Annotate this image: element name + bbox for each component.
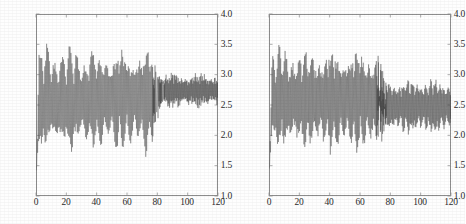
y-tick-label: 4.0 [202, 10, 232, 20]
y-tick-label: 1.5 [202, 161, 232, 171]
x-tick-label: 60 [345, 198, 375, 208]
x-tick-label: 40 [314, 198, 344, 208]
y-tick-label: 3.5 [435, 40, 465, 50]
x-tick-label: 120 [436, 198, 466, 208]
x-tick-label: 80 [375, 198, 405, 208]
x-tick-label: 40 [81, 198, 111, 208]
data-line [36, 44, 218, 171]
y-tick-label: 3.0 [435, 70, 465, 80]
x-tick-label: 100 [172, 198, 202, 208]
plot-area-left [0, 0, 232, 224]
x-tick-label: 20 [284, 198, 314, 208]
plot-area-right [233, 0, 465, 224]
x-tick-label: 60 [112, 198, 142, 208]
x-tick-label: 100 [405, 198, 435, 208]
y-tick-label: 4.0 [435, 10, 465, 20]
x-tick-label: 0 [254, 198, 284, 208]
data-line [269, 45, 451, 169]
y-tick-label: 2.5 [435, 101, 465, 111]
x-tick-label: 80 [142, 198, 172, 208]
y-tick-label: 3.0 [202, 70, 232, 80]
y-tick-label: 1.5 [435, 161, 465, 171]
y-tick-label: 2.0 [202, 131, 232, 141]
y-tick-label: 2.5 [202, 101, 232, 111]
x-tick-label: 20 [51, 198, 81, 208]
y-tick-label: 3.5 [202, 40, 232, 50]
chart-panel-right: 4.0 3.5 3.0 2.5 2.0 1.5 1.0 0 20 40 60 8… [233, 0, 465, 224]
x-tick-label: 120 [203, 198, 233, 208]
chart-panel-left: 4.0 3.5 3.0 2.5 2.0 1.5 1.0 0 20 40 60 8… [0, 0, 232, 224]
x-tick-label: 0 [21, 198, 51, 208]
y-tick-label: 2.0 [435, 131, 465, 141]
